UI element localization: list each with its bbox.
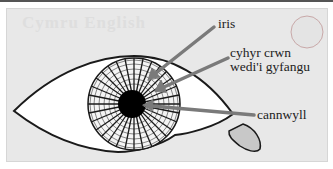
label-ciliary-line1: cyhyr crwn	[230, 46, 291, 60]
pupil	[118, 90, 146, 118]
label-pupil: cannwyll	[257, 108, 307, 122]
eye-diagram	[0, 0, 333, 169]
label-iris: iris	[218, 17, 235, 31]
iris-pointer	[156, 27, 214, 73]
corner-circle-icon	[291, 16, 323, 48]
label-ciliary-line2: wedi'i gyfangu	[230, 60, 310, 74]
caruncle	[229, 124, 260, 151]
